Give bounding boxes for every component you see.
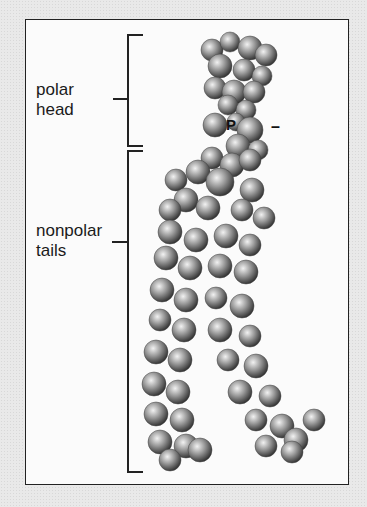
- atom-sphere: [206, 168, 234, 196]
- atom-sphere: [239, 325, 261, 347]
- atom-sphere: [150, 278, 174, 302]
- atom-sphere: [208, 54, 232, 78]
- nonpolar-tails-bracket: [112, 151, 143, 472]
- atom-sphere: [231, 199, 253, 221]
- atom-sphere: [230, 294, 254, 318]
- atom-sphere: [144, 340, 168, 364]
- atom-sphere: [166, 380, 190, 404]
- atom-sphere: [218, 95, 238, 115]
- atom-sphere: [158, 220, 182, 244]
- atom-sphere: [244, 354, 268, 378]
- atom-sphere: [154, 246, 178, 270]
- atom-sphere: [159, 449, 181, 471]
- phospholipid-model: P –: [0, 0, 367, 507]
- atom-sphere: [149, 309, 171, 331]
- atom-sphere: [208, 254, 232, 278]
- atom-sphere: [255, 44, 277, 66]
- atom-sphere: [245, 409, 267, 431]
- atom-sphere: [142, 372, 166, 396]
- atom-sphere: [214, 224, 238, 248]
- polar-head-bracket: [113, 35, 143, 146]
- atom-sphere: [208, 318, 232, 342]
- atom-sphere: [243, 81, 265, 103]
- atom-sphere: [228, 380, 252, 404]
- atom-sphere: [303, 409, 325, 431]
- atom-sphere: [239, 149, 261, 171]
- atom-sphere: [240, 178, 264, 202]
- atom-sphere: [281, 441, 303, 463]
- brackets: [112, 35, 143, 472]
- atom-sphere: [196, 196, 220, 220]
- atom-sphere: [217, 349, 239, 371]
- atom-sphere: [174, 288, 198, 312]
- atom-sphere: [159, 199, 181, 221]
- phosphorus-label: P: [226, 116, 236, 133]
- atom-sphere: [205, 287, 227, 309]
- atom-sphere: [220, 32, 240, 52]
- atom-sphere: [184, 228, 208, 252]
- atom-sphere: [239, 234, 261, 256]
- atom-sphere: [178, 256, 202, 280]
- atom-sphere: [234, 260, 258, 284]
- atom-sphere: [172, 318, 196, 342]
- atom-sphere: [259, 385, 281, 407]
- atom-sphere: [144, 402, 168, 426]
- atom-sphere: [188, 438, 212, 462]
- atom-sphere: [255, 435, 277, 457]
- negative-charge-label: –: [271, 118, 280, 135]
- atoms: [142, 32, 325, 471]
- atom-sphere: [165, 169, 187, 191]
- atom-sphere: [233, 59, 255, 81]
- atom-sphere: [253, 207, 275, 229]
- atom-sphere: [170, 408, 194, 432]
- atom-sphere: [203, 113, 227, 137]
- atom-sphere: [168, 348, 192, 372]
